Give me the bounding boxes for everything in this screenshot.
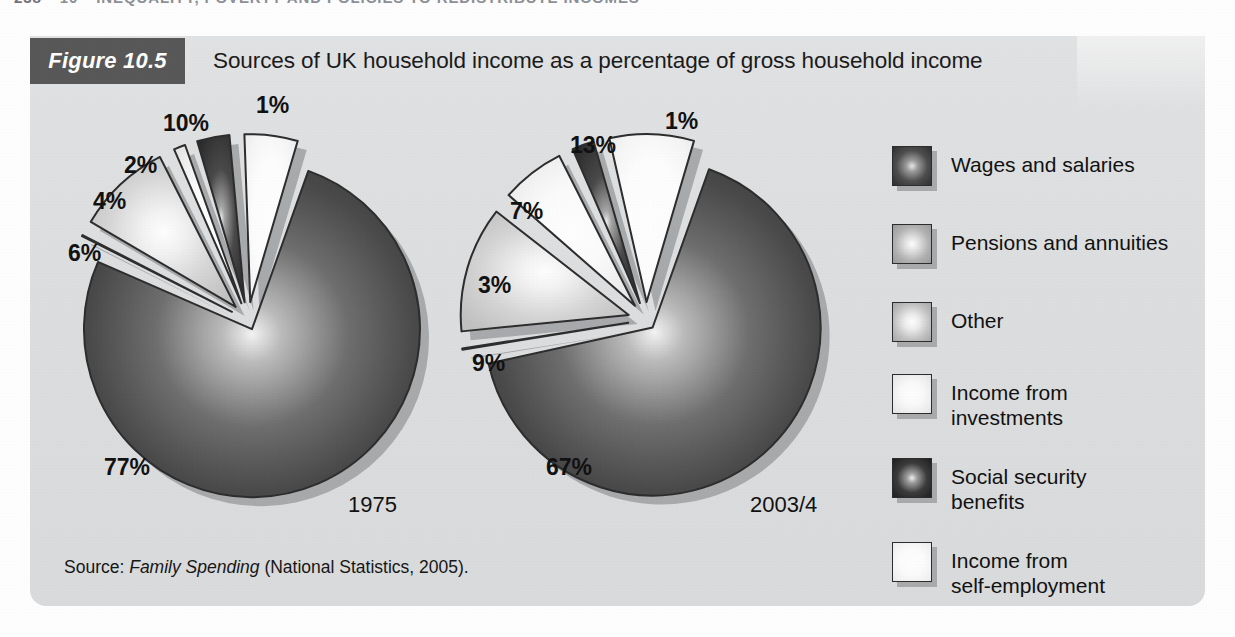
figure-title-row: Figure 10.5 Sources of UK household inco… <box>30 38 1205 84</box>
pie-2003-slice-label-social: 3% <box>478 272 511 299</box>
chart-area: 1% 10% 2% 4% 6% 77% 1975 1% 13% 7% 3% 9%… <box>30 82 1205 552</box>
source-publication: Family Spending <box>129 557 259 577</box>
page-number: 238 <box>14 0 42 6</box>
running-header: 238 10 INEQUALITY, POVERTY AND POLICIES … <box>0 0 1235 11</box>
pie-1975-year-label: 1975 <box>348 492 397 518</box>
legend-item-income-from-investments[interactable]: Income from investments <box>892 374 1068 430</box>
legend-item-pensions-and-annuities[interactable]: Pensions and annuities <box>892 224 1168 266</box>
pie-2003-slice-label-other: 13% <box>570 132 616 159</box>
legend-item-wages-and-salaries[interactable]: Wages and salaries <box>892 146 1135 188</box>
chapter-title: INEQUALITY, POVERTY AND POLICIES TO REDI… <box>96 0 640 6</box>
pie-2003-slice-label-wages: 67% <box>546 454 592 481</box>
figure-number-badge: Figure 10.5 <box>30 38 185 84</box>
pie-1975-slice-label-other: 10% <box>163 110 209 137</box>
legend-label-social-security-benefits: Social security benefits <box>951 458 1086 514</box>
source-suffix: (National Statistics, 2005). <box>260 557 469 577</box>
pie-2003-slice-label-investments: 7% <box>510 198 543 225</box>
chapter-number: 10 <box>60 0 79 6</box>
pie-1975-slice-label-wages: 77% <box>104 454 150 481</box>
pie-2003-4-graphic <box>450 92 850 532</box>
figure-source: Source: Family Spending (National Statis… <box>64 557 469 578</box>
pie-2003-slice-label-self-emp: 9% <box>472 350 505 377</box>
source-prefix: Source: <box>64 557 129 577</box>
legend-label-other: Other <box>951 302 1004 333</box>
pie-2003-slice-label-wages-small: 1% <box>665 108 698 135</box>
legend-label-income-from-investments: Income from investments <box>951 374 1068 430</box>
legend-swatch-income-from-self-employment-icon <box>892 542 934 584</box>
pie-1975-slice-label-self-emp: 6% <box>68 240 101 267</box>
legend-swatch-other-icon <box>892 302 934 344</box>
figure-panel: Figure 10.5 Sources of UK household inco… <box>30 36 1205 606</box>
pie-1975-slice-label-wages-small: 1% <box>256 92 289 119</box>
pie-1975-slice-label-social: 4% <box>93 188 126 215</box>
legend-label-income-from-self-employment: Income from self-employment <box>951 542 1105 598</box>
legend-item-social-security-benefits[interactable]: Social security benefits <box>892 458 1086 514</box>
legend-swatch-pensions-and-annuities-icon <box>892 224 934 266</box>
legend-item-other[interactable]: Other <box>892 302 1004 344</box>
figure-title: Sources of UK household income as a perc… <box>185 38 983 84</box>
figure-number-label: Figure 10.5 <box>48 48 166 74</box>
legend-label-wages-and-salaries: Wages and salaries <box>951 146 1135 177</box>
pie-chart-1975: 1% 10% 2% 4% 6% 77% 1975 <box>60 92 460 532</box>
legend-label-pensions-and-annuities: Pensions and annuities <box>951 224 1168 255</box>
pie-1975-slice-label-investments: 2% <box>124 152 157 179</box>
legend-swatch-wages-and-salaries-icon <box>892 146 934 188</box>
pie-2003-4-year-label: 2003/4 <box>750 492 817 518</box>
legend-swatch-social-security-benefits-icon <box>892 458 934 500</box>
pie-chart-2003-4: 1% 13% 7% 3% 9% 67% 2003/4 <box>450 92 870 532</box>
legend-item-income-from-self-employment[interactable]: Income from self-employment <box>892 542 1105 598</box>
legend-swatch-income-from-investments-icon <box>892 374 934 416</box>
